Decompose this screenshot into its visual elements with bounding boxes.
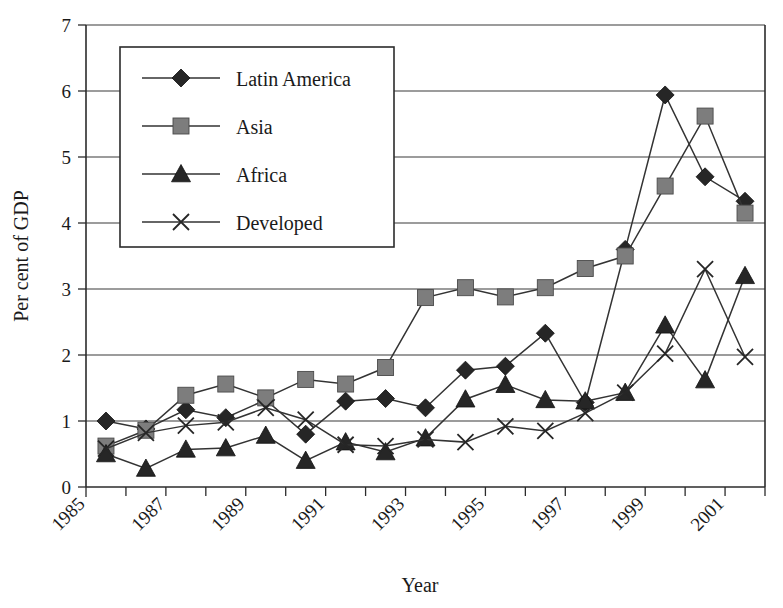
square-marker [298,371,314,387]
square-marker [497,289,513,305]
square-marker [697,108,713,124]
x-axis-title: Year [402,574,439,596]
legend-item-label: Developed [236,212,323,235]
square-marker [457,280,473,296]
square-marker [338,376,354,392]
y-axis-title: Per cent of GDP [10,190,32,322]
square-marker [418,290,434,306]
y-tick-label: 7 [62,15,72,36]
square-marker [737,205,753,221]
square-marker [173,118,189,134]
y-tick-label: 1 [62,411,72,432]
square-marker [258,390,274,406]
square-marker [218,376,234,392]
legend-item-label: Latin America [236,68,351,90]
square-marker [378,360,394,376]
legend-item-label: Africa [236,164,287,186]
chart-container: 01234567 1985198719891991199319951997199… [0,0,783,608]
y-tick-label: 3 [62,279,72,300]
square-marker [537,280,553,296]
legend-item-label: Asia [236,116,273,138]
y-tick-label: 4 [62,213,72,234]
square-marker [577,261,593,277]
square-marker [657,178,673,194]
y-tick-label: 0 [62,477,72,498]
chart-legend: Latin AmericaAsiaAfricaDeveloped [120,47,394,247]
square-marker [617,248,633,264]
y-tick-label: 5 [62,147,72,168]
y-tick-label: 2 [62,345,72,366]
y-tick-label: 6 [62,81,72,102]
square-marker [178,387,194,403]
gdp-line-chart: 01234567 1985198719891991199319951997199… [0,0,783,608]
